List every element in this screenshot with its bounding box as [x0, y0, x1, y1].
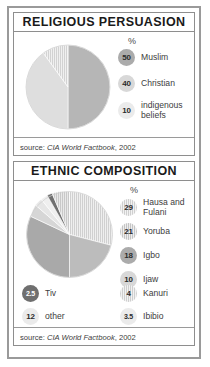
infographic-frame: RELIGIOUS PERSUASION: [7, 6, 201, 359]
source-year: , 2002: [115, 143, 136, 152]
pie-chart-ethnic-composition: [22, 187, 117, 282]
legend-item: 4 Kanuri: [120, 285, 168, 302]
legend-value-bubble: 10: [118, 102, 135, 119]
source-note-ethnic-composition: source: CIA World Factbook, 2002: [20, 333, 136, 342]
legend-item-label: Christian: [141, 79, 175, 89]
source-note-religious-persuasion: source: CIA World Factbook, 2002: [20, 143, 136, 152]
legend-value-bubble: 50: [118, 49, 135, 66]
legend-item: 18 Igbo: [120, 247, 204, 264]
source-divider: [14, 137, 194, 138]
legend-item-label: Ibibio: [143, 312, 164, 322]
legend-item-label: Kanuri: [143, 289, 168, 299]
legend-bottom-row: 2.5 Tiv 4 Kanuri: [22, 285, 188, 302]
legend-item: 12 other: [22, 308, 120, 325]
legend-item-label: other: [45, 312, 65, 322]
legend-ethnic-composition: % 29 Hausa and Fulani 21 Yoruba 18 Igbo …: [120, 185, 204, 291]
legend-item-label: Ijaw: [143, 275, 158, 285]
legend-item: 50 Muslim: [118, 49, 204, 66]
panel-religious-persuasion: RELIGIOUS PERSUASION: [13, 12, 195, 156]
legend-item-label: Muslim: [141, 53, 168, 63]
panel-title-religious-persuasion: RELIGIOUS PERSUASION: [13, 12, 195, 32]
legend-value-bubble: 21: [120, 223, 137, 240]
legend-value-bubble: 12: [22, 308, 39, 325]
legend-item: 2.5 Tiv: [22, 285, 120, 302]
legend-item: 10 indigenous beliefs: [118, 101, 204, 120]
legend-percent-header: %: [130, 185, 204, 196]
source-prefix: source:: [20, 143, 47, 152]
source-year: , 2002: [115, 333, 136, 342]
pie-chart-religious-persuasion: [22, 41, 114, 133]
panel-title-ethnic-composition: ETHNIC COMPOSITION: [13, 161, 195, 181]
legend-value-bubble: 40: [118, 75, 135, 92]
pie-slice-muslim: [68, 45, 110, 129]
panel-body-ethnic-composition: % 29 Hausa and Fulani 21 Yoruba 18 Igbo …: [13, 181, 195, 346]
legend-item-label: Yoruba: [143, 227, 170, 237]
legend-value-bubble: 18: [120, 247, 137, 264]
legend-item-label: Hausa and Fulani: [143, 198, 203, 217]
legend-item: 29 Hausa and Fulani: [120, 198, 204, 217]
source-prefix: source:: [20, 333, 47, 342]
legend-item: 3.5 Ibibio: [120, 308, 164, 325]
source-title: CIA World Factbook: [47, 143, 115, 152]
legend-value-bubble: 4: [120, 285, 137, 302]
legend-value-bubble: 2.5: [22, 285, 39, 302]
legend-item-label: Igbo: [143, 251, 160, 261]
panel-ethnic-composition: ETHNIC COMPOSITION: [13, 161, 195, 346]
panel-body-religious-persuasion: % 50 Muslim 40 Christian 10 indigenous b…: [13, 32, 195, 156]
legend-item-label: indigenous beliefs: [141, 101, 199, 120]
source-divider: [14, 327, 194, 328]
legend-item: 21 Yoruba: [120, 223, 204, 240]
legend-item: 40 Christian: [118, 75, 204, 92]
source-title: CIA World Factbook: [47, 333, 115, 342]
legend-bottom-ethnic-composition: 2.5 Tiv 4 Kanuri 12 other 3.5 I: [22, 285, 188, 331]
legend-percent-header: %: [128, 36, 204, 47]
legend-value-bubble: 29: [120, 199, 137, 216]
legend-item-label: Tiv: [45, 289, 56, 299]
legend-religious-persuasion: % 50 Muslim 40 Christian 10 indigenous b…: [118, 36, 204, 123]
legend-value-bubble: 3.5: [120, 308, 137, 325]
legend-bottom-row: 12 other 3.5 Ibibio: [22, 308, 188, 325]
